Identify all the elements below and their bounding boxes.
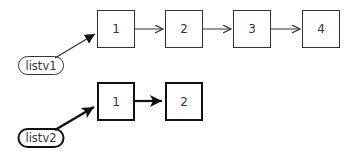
node-listv1-4: 4: [303, 11, 340, 48]
node-listv1-3: 3: [234, 11, 271, 48]
node-listv2-2: 2: [166, 83, 202, 120]
node-value: 4: [317, 22, 325, 36]
list-listv2: listv2 1 2: [19, 83, 203, 147]
node-value: 2: [180, 22, 188, 36]
list-label-listv1: listv1: [19, 57, 64, 75]
linked-list-diagram: listv1 1 2 3 4: [0, 0, 354, 155]
node-listv1-1: 1: [98, 11, 135, 48]
list-label-text: listv2: [25, 131, 56, 145]
pointer-arrow-listv1: [55, 34, 95, 58]
pointer-arrow-listv2: [55, 107, 94, 130]
diagram-canvas: listv1 1 2 3 4: [0, 0, 354, 155]
list-label-text: listv1: [25, 59, 56, 73]
node-value: 1: [112, 22, 120, 36]
node-listv1-2: 2: [166, 11, 203, 48]
node-value: 3: [248, 22, 256, 36]
node-value: 1: [112, 95, 120, 109]
list-listv1: listv1 1 2 3 4: [19, 11, 340, 75]
node-listv2-1: 1: [98, 83, 134, 120]
node-value: 2: [180, 95, 188, 109]
list-label-listv2: listv2: [19, 129, 64, 147]
